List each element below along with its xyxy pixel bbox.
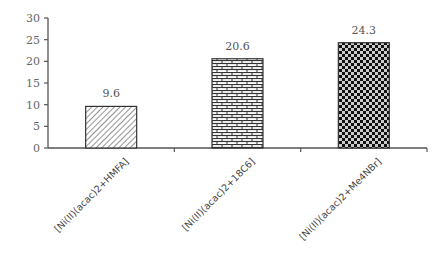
y-tick-label: 25: [26, 34, 40, 47]
value-label: 9.6: [102, 87, 120, 100]
bars: [86, 43, 390, 148]
bar-2: [212, 59, 263, 148]
y-tick-label: 20: [26, 55, 40, 68]
y-tick-label: 15: [26, 77, 40, 90]
y-tick-label: 0: [33, 142, 40, 155]
bar-3: [338, 43, 389, 148]
category-label: [Ni(II)(acac)2+18C6]: [180, 156, 257, 233]
bar-1: [86, 106, 137, 148]
category-labels: [Ni(II)(acac)2+HMFA][Ni(II)(acac)2+18C6]…: [52, 156, 383, 242]
value-label: 20.6: [225, 40, 250, 53]
category-label: [Ni(II)(acac)2+HMFA]: [52, 156, 131, 235]
y-tick-label: 10: [26, 99, 40, 112]
value-label: 24.3: [352, 24, 377, 37]
category-label: [Ni(II)(acac)2+Me4NBr]: [297, 156, 383, 242]
y-tick-label: 30: [26, 12, 40, 25]
y-tick-label: 5: [33, 120, 40, 133]
bar-chart: 051015202530 9.620.624.3 [Ni(II)(acac)2+…: [0, 0, 446, 277]
y-axis: 051015202530: [26, 12, 48, 155]
